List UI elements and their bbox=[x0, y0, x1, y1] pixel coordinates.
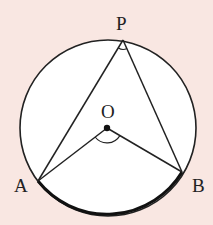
label-b: B bbox=[192, 175, 205, 196]
circle-diagram: P O A B bbox=[0, 0, 213, 225]
center-point-o bbox=[104, 125, 110, 131]
label-o: O bbox=[101, 101, 115, 122]
label-p: P bbox=[116, 13, 127, 34]
label-a: A bbox=[14, 175, 28, 196]
